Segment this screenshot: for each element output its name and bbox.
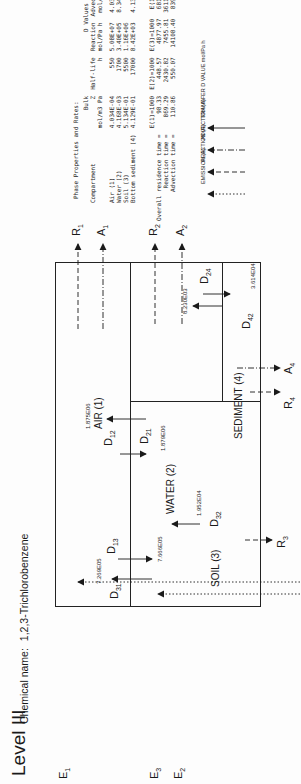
r1-label: R1 — [70, 224, 84, 236]
d12-value: 1.879E06 — [160, 425, 166, 451]
a1-label: A1 — [95, 225, 109, 236]
e3-label: E3 — [148, 768, 162, 779]
d32-value: 1.952E04 — [196, 490, 202, 516]
d13-label: D13 — [105, 538, 119, 554]
table-row: Advection time = 110.86 550.07 14108.40 … — [169, 0, 176, 224]
d12-label: D12 — [102, 430, 116, 446]
table-row: Bottom sediment (4) 4.129E-01 17000 8.42… — [129, 0, 136, 206]
table-row: Soil (3) 5.134E-01 5500 1.16E+06 — [122, 0, 129, 206]
a4-label: A4 — [282, 363, 296, 374]
d42-label: D42 — [240, 313, 254, 329]
phase-table-title: Phase Properties and Rates: — [72, 101, 79, 199]
e2-label: E2 — [172, 768, 186, 779]
d42-value: 8.230E03 — [182, 288, 188, 314]
legend-transfer: TRANSFER D VALUE mol/Pa h — [200, 40, 206, 118]
table-row: Overall residence time = 98.33 448.57 48… — [155, 0, 162, 224]
d24-label: D24 — [198, 268, 212, 284]
phase-table: Bulk D Values Compartment Z Half-life Re… — [82, 0, 136, 206]
r3-label: R3 — [275, 536, 289, 548]
d31-label: D31 — [108, 583, 122, 599]
rotated-page: Level III Chemical name: 1,2,3-Trichloro… — [0, 0, 301, 784]
d24-value: 3.614E04 — [250, 263, 256, 289]
table-row: Air (1) 4.034E-04 550 5.08E+07 4.03E+08 — [108, 0, 115, 206]
table-row: Reaction time = 869.29 2430.82 7455.81 3… — [162, 0, 169, 224]
d32-label: D32 — [208, 511, 222, 527]
d31-value: 7.269E05 — [96, 558, 102, 584]
d21-value: 1.875E06 — [85, 403, 91, 429]
table-row: Water (2) 4.168E-03 1700 3.40E+05 8.34E+… — [115, 0, 122, 206]
a2-label: A2 — [174, 225, 188, 236]
residence-table: E(1)=1000 E(2)=1000 E(3)=1000 E(1,2,3) O… — [148, 0, 176, 224]
r4-label: R4 — [282, 397, 296, 409]
e1-label: E1 — [57, 768, 71, 779]
r2-label: R2 — [147, 224, 161, 236]
d21-label: D21 — [138, 428, 152, 444]
d13-value: 7.666E05 — [157, 536, 163, 562]
